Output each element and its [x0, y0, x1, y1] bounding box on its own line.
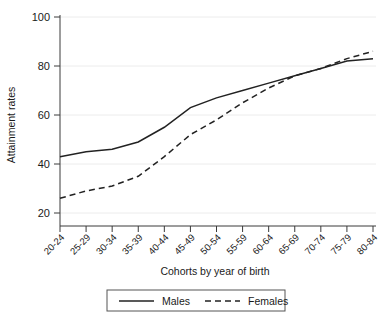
y-axis-title: Attainment rates: [5, 87, 17, 163]
x-tick-label-70-74: 70-74: [302, 232, 327, 257]
x-tick-label-30-34: 30-34: [94, 232, 119, 257]
x-tick-label-20-24: 20-24: [41, 232, 66, 257]
x-tick-marks: [60, 226, 373, 232]
gridlines: [60, 17, 376, 213]
plot-series: [60, 51, 373, 198]
y-axis: 100 80 60 40 20 Attainment rates: [5, 11, 60, 226]
line-chart-svg: 100 80 60 40 20 Attainment rates 20-2425…: [0, 0, 388, 318]
x-tick-label-35-39: 35-39: [120, 232, 145, 257]
x-tick-label-75-79: 75-79: [328, 232, 353, 257]
series-line-females: [60, 51, 373, 198]
x-tick-label-60-64: 60-64: [250, 232, 275, 257]
x-axis-title: Cohorts by year of birth: [160, 265, 269, 277]
chart-legend: Males Females: [107, 290, 288, 311]
x-tick-label-50-54: 50-54: [198, 232, 223, 257]
y-tick-label-40: 40: [38, 158, 50, 170]
x-tick-label-25-29: 25-29: [68, 232, 93, 257]
chart-figure: 100 80 60 40 20 Attainment rates 20-2425…: [0, 0, 388, 318]
y-tick-label-20: 20: [38, 207, 50, 219]
legend-label-males: Males: [162, 295, 190, 307]
y-tick-label-80: 80: [38, 60, 50, 72]
x-tick-label-40-44: 40-44: [146, 232, 171, 257]
x-tick-label-80-84: 80-84: [354, 232, 379, 257]
x-tick-label-55-59: 55-59: [224, 232, 249, 257]
series-line-males: [60, 59, 373, 157]
x-tick-labels: 20-2425-2930-3435-3940-4445-4950-5455-59…: [41, 232, 379, 257]
y-tick-label-60: 60: [38, 109, 50, 121]
legend-label-females: Females: [248, 295, 288, 307]
x-tick-label-45-49: 45-49: [172, 232, 197, 257]
y-tick-label-100: 100: [32, 11, 50, 23]
x-axis: 20-2425-2930-3435-3940-4445-4950-5455-59…: [41, 226, 379, 277]
x-tick-label-65-69: 65-69: [276, 232, 301, 257]
